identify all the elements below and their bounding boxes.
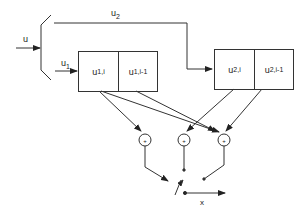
adder-2-sign: + (182, 138, 186, 144)
splitter-bracket (41, 15, 51, 80)
u2-label: u2 (111, 8, 120, 20)
adder-1-sign: + (143, 138, 147, 144)
input-label: u (23, 34, 28, 44)
u1-label: u1 (61, 58, 70, 70)
register-1-cell-current: u1,i (79, 52, 119, 91)
adder-3-sign: + (222, 138, 226, 144)
register-1-cell-previous: u1,i-1 (119, 52, 157, 91)
register-2: u2,i u2,i-1 (214, 49, 294, 90)
register-2-cell-current: u2,i (215, 50, 255, 89)
register-2-cell-previous: u2,i-1 (255, 50, 293, 89)
register-1: u1,i u1,i-1 (78, 51, 158, 92)
diagram-canvas: + + + (0, 0, 307, 216)
output-label: x (200, 198, 204, 207)
